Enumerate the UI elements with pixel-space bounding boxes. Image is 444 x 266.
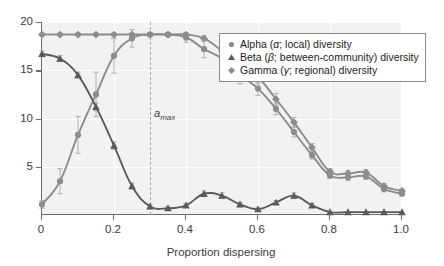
data-point-marker	[200, 35, 208, 43]
x-axis-tick-label: 0	[21, 224, 61, 236]
data-point-marker	[75, 132, 81, 138]
data-point-marker	[291, 129, 297, 135]
legend-greek-symbol: β	[268, 51, 274, 63]
data-point-marker	[57, 178, 63, 184]
data-point-marker	[74, 31, 82, 39]
legend-item-label: Beta (β; between-community) diversity	[240, 51, 419, 64]
y-axis-tick	[36, 70, 41, 71]
legend-item-label: Alpha (α; local) diversity	[240, 38, 352, 51]
legend-greek-symbol: α	[273, 38, 279, 50]
legend-item-alpha[interactable]: Alpha (α; local) diversity	[225, 38, 419, 51]
data-point-marker	[111, 53, 117, 59]
y-axis-tick	[36, 119, 41, 120]
x-axis-tick-label: 0.2	[93, 224, 133, 236]
diamond-marker-icon	[225, 66, 238, 75]
x-axis-tick-label: 0.8	[309, 224, 349, 236]
x-axis-tick	[113, 215, 114, 220]
legend-item-label: Gamma (γ; regional) diversity	[240, 64, 377, 77]
data-point-marker	[146, 31, 154, 39]
legend-item-beta[interactable]: Beta (β; between-community) diversity	[225, 51, 419, 64]
circle-marker-icon	[225, 40, 238, 49]
data-point-marker	[38, 31, 46, 39]
amax-subscript: max	[160, 113, 175, 122]
data-point-marker	[92, 31, 100, 39]
x-axis-tick	[329, 215, 330, 220]
data-point-marker	[309, 152, 315, 158]
x-axis-tick	[257, 215, 258, 220]
y-axis-tick-label: 20	[20, 16, 33, 28]
data-point-marker	[255, 85, 261, 91]
y-axis-tick	[36, 167, 41, 168]
x-axis-tick	[41, 215, 42, 220]
y-axis-tick-label: 10	[20, 113, 33, 125]
x-axis-title: Proportion dispersing	[41, 246, 401, 258]
x-axis-tick	[401, 215, 402, 220]
data-point-marker	[39, 201, 45, 207]
data-point-marker	[164, 31, 172, 39]
data-point-marker	[93, 91, 99, 97]
chart-figure: 510152000.20.40.60.81.0 Species richness…	[0, 0, 444, 266]
chart-legend: Alpha (α; local) diversityBeta (β; betwe…	[219, 33, 426, 82]
data-point-marker	[110, 142, 118, 149]
x-axis-tick	[185, 215, 186, 220]
triangle-marker-icon	[225, 53, 238, 62]
x-axis-tick-label: 0.6	[237, 224, 277, 236]
data-point-marker	[92, 103, 100, 110]
x-axis-tick-label: 0.4	[165, 224, 205, 236]
y-axis-tick	[36, 22, 41, 23]
legend-item-gamma[interactable]: Gamma (γ; regional) diversity	[225, 64, 419, 77]
x-axis-tick-label: 1.0	[381, 224, 421, 236]
y-axis-tick-label: 5	[27, 161, 33, 173]
data-point-marker	[110, 31, 118, 39]
amax-annotation-label: amax	[154, 107, 175, 122]
data-point-marker	[56, 31, 64, 39]
y-axis-tick-label: 15	[20, 64, 33, 76]
data-point-marker	[128, 182, 136, 189]
data-point-marker	[201, 46, 207, 52]
legend-greek-symbol: γ	[284, 64, 289, 76]
data-point-marker	[273, 106, 279, 112]
